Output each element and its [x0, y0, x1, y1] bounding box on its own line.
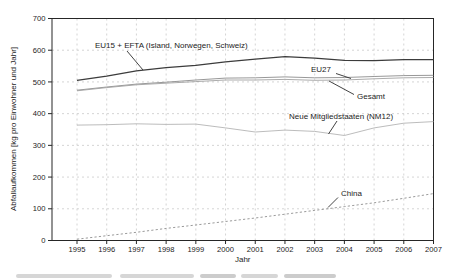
- x-tick-label: 1998: [158, 245, 175, 254]
- cropped-text-fragment: [241, 274, 278, 278]
- x-tick-label: 2002: [277, 245, 294, 254]
- cropped-text-fragment: [120, 274, 194, 278]
- y-tick-label: 500: [33, 78, 46, 87]
- annotation-leader-eu15-efta: [127, 51, 143, 70]
- annotation-label-gesamt: Gesamt: [357, 92, 386, 101]
- y-tick-label: 300: [33, 141, 46, 150]
- x-tick-label: 2005: [366, 245, 383, 254]
- annotation-leader-nm12: [329, 121, 338, 134]
- x-tick-label: 1995: [69, 245, 86, 254]
- annotation-label-eu15-efta: EU15 + EFTA (Island, Norwegen, Schweiz): [95, 41, 248, 50]
- x-tick-label: 1996: [98, 245, 115, 254]
- x-tick-label: 2007: [425, 245, 442, 254]
- y-tick-label: 400: [33, 109, 46, 118]
- x-tick-label: 2003: [306, 245, 323, 254]
- annotation-leader-china: [328, 198, 338, 208]
- x-tick-label: 2004: [336, 245, 353, 254]
- y-tick-label: 100: [33, 204, 46, 213]
- waste-per-capita-chart-figure: 0100200300400500600700199519961997199819…: [0, 0, 456, 279]
- y-tick-label: 0: [41, 236, 45, 245]
- x-tick-label: 2006: [395, 245, 412, 254]
- y-tick-label: 200: [33, 173, 46, 182]
- x-tick-label: 1999: [187, 245, 204, 254]
- x-tick-label: 1997: [128, 245, 145, 254]
- cropped-text-fragment: [200, 274, 236, 278]
- annotation-leader-gesamt: [329, 81, 354, 95]
- cropped-text-fragment: [284, 274, 336, 278]
- y-tick-label: 700: [33, 14, 46, 23]
- cropped-text-fragment: [16, 274, 112, 278]
- plot-frame: [52, 19, 434, 241]
- annotation-label-eu27: EU27: [311, 65, 332, 74]
- cropped-caption-strip: [0, 274, 456, 279]
- x-tick-label: 2000: [217, 245, 234, 254]
- y-tick-label: 600: [33, 46, 46, 55]
- series-line-eu27: [77, 75, 434, 90]
- x-tick-label: 2001: [247, 245, 264, 254]
- y-axis-title: Abfallaufkommen [kg pro Einwohner und Ja…: [9, 47, 18, 211]
- chart-canvas: 0100200300400500600700199519961997199819…: [0, 0, 456, 279]
- annotation-label-china: China: [341, 189, 362, 198]
- annotation-label-nm12: Neue Mitgliedstaaten (NM12): [289, 112, 393, 121]
- x-axis-title: Jahr: [235, 255, 251, 264]
